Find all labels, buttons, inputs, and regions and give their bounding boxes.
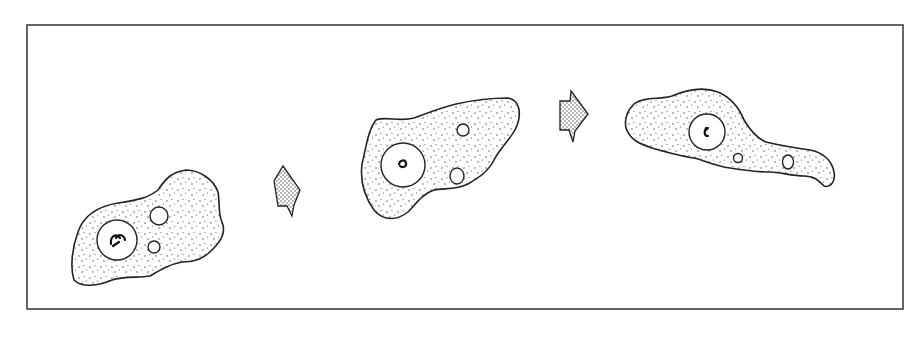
vacuole bbox=[450, 168, 464, 184]
amoeba-stage-2 bbox=[362, 98, 520, 219]
vacuole bbox=[148, 241, 160, 253]
amoeba-stage-1 bbox=[72, 170, 224, 285]
arrow-right-icon bbox=[560, 91, 588, 142]
vacuole bbox=[457, 124, 469, 136]
nucleus bbox=[381, 143, 425, 187]
arrow-right-icon bbox=[274, 166, 300, 216]
vacuole bbox=[734, 154, 743, 163]
vacuole bbox=[150, 207, 168, 225]
cell-membrane bbox=[72, 170, 224, 285]
illustration bbox=[0, 0, 924, 351]
cell-membrane bbox=[625, 89, 834, 186]
nucleus bbox=[689, 114, 725, 150]
amoeba-stage-3 bbox=[625, 89, 834, 186]
nucleus bbox=[97, 220, 137, 260]
vacuole bbox=[783, 155, 794, 169]
